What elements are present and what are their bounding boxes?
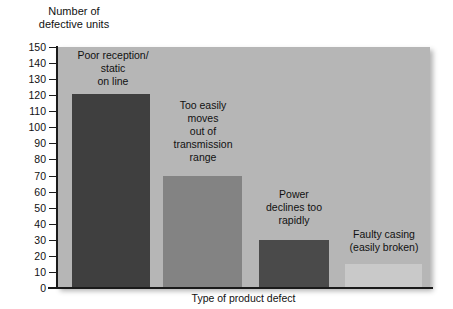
y-tick-label: 70: [2, 171, 46, 181]
bar-caption-power-declines: Power declines too rapidly: [244, 188, 344, 227]
y-tick-label: 120: [2, 90, 46, 100]
y-axis-line: [56, 46, 58, 289]
y-tick-mark: [49, 63, 57, 64]
y-tick-mark: [49, 111, 57, 112]
y-tick-label: 80: [2, 154, 46, 164]
y-tick-label: 110: [2, 106, 46, 116]
y-tick-label: 10: [2, 267, 46, 277]
bar-caption-faulty-casing: Faulty casing (easily broken): [338, 228, 430, 254]
y-tick-mark: [49, 240, 57, 241]
y-tick-label: 150: [2, 42, 46, 52]
y-tick-mark: [49, 272, 57, 273]
y-tick-label: 90: [2, 138, 46, 148]
pareto-bar-chart: Number of defective units Poor reception…: [0, 0, 453, 309]
y-tick-mark: [49, 79, 57, 80]
y-tick-label: 100: [2, 122, 46, 132]
bar-poor-reception: [72, 94, 150, 288]
bar-too-easily-moves: [163, 176, 242, 289]
bar-caption-too-easily-moves: Too easily moves out of transmission ran…: [153, 99, 253, 164]
y-tick-label: 60: [2, 187, 46, 197]
y-tick-mark: [49, 143, 57, 144]
y-tick-label: 20: [2, 251, 46, 261]
bar-faulty-casing: [345, 264, 422, 288]
y-axis-title: Number of defective units: [14, 5, 134, 31]
bar-power-declines: [259, 240, 329, 288]
x-axis-title: Type of product defect: [57, 292, 430, 305]
y-tick-mark: [49, 159, 57, 160]
y-tick-label: 50: [2, 203, 46, 213]
y-tick-label: 140: [2, 58, 46, 68]
y-tick-mark: [49, 208, 57, 209]
plot-area: Poor reception/ static on line Too easil…: [57, 47, 430, 288]
bar-caption-poor-reception: Poor reception/ static on line: [63, 49, 163, 88]
y-tick-mark: [49, 47, 57, 48]
y-tick-mark: [49, 192, 57, 193]
y-tick-label: 40: [2, 219, 46, 229]
y-tick-label: 30: [2, 235, 46, 245]
y-tick-label: 0: [2, 283, 46, 293]
x-axis-line: [48, 287, 433, 289]
y-tick-mark: [49, 176, 57, 177]
y-tick-mark: [49, 224, 57, 225]
y-tick-label: 130: [2, 74, 46, 84]
y-tick-mark: [49, 127, 57, 128]
y-tick-mark: [49, 256, 57, 257]
y-tick-mark: [49, 95, 57, 96]
y-tick-mark: [49, 288, 57, 289]
